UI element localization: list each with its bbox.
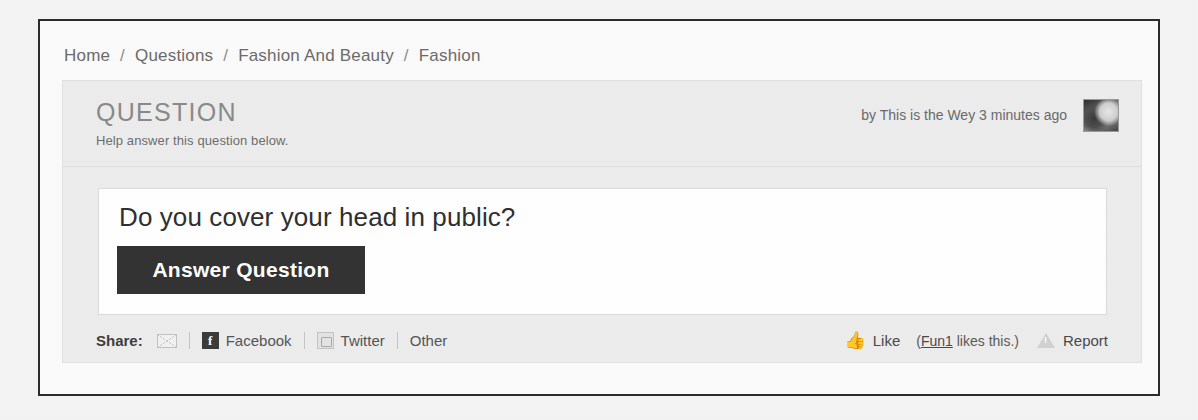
user-avatar-photo-icon[interactable] [1083, 99, 1119, 132]
warning-triangle-icon [1037, 333, 1055, 348]
breadcrumb-item-questions[interactable]: Questions [135, 46, 213, 65]
share-twitter-link[interactable]: Twitter [317, 332, 385, 349]
facebook-icon: f [202, 332, 219, 349]
question-card-header: QUESTION Help answer this question below… [63, 81, 1141, 167]
question-card: QUESTION Help answer this question below… [62, 80, 1142, 363]
page-subtitle: Help answer this question below. [96, 133, 289, 148]
breadcrumb-separator: / [120, 46, 125, 65]
share-divider [189, 332, 190, 349]
breadcrumb-separator: / [404, 46, 409, 65]
like-button[interactable]: Like [873, 332, 901, 349]
answer-question-button[interactable]: Answer Question [117, 246, 365, 294]
question-footer: Share: f Facebook Twitter Other 👍 Like [63, 326, 1141, 364]
action-group: 👍 Like (Fun1 likes this.) Report [845, 332, 1108, 349]
share-other-link[interactable]: Other [410, 332, 448, 349]
likes-note-rest: likes this.) [953, 333, 1019, 349]
share-group: Share: f Facebook Twitter Other [96, 332, 447, 349]
question-body: Do you cover your head in public? Answer… [98, 188, 1107, 315]
question-text: Do you cover your head in public? [119, 202, 515, 233]
report-button[interactable]: Report [1063, 332, 1108, 349]
author-byline: by This is the Wey 3 minutes ago [861, 107, 1067, 123]
envelope-icon[interactable] [157, 334, 177, 348]
breadcrumb-item-fashion-and-beauty[interactable]: Fashion And Beauty [238, 46, 394, 65]
share-divider [304, 332, 305, 349]
share-facebook-label: Facebook [226, 332, 292, 349]
share-label: Share: [96, 332, 143, 349]
page-title: QUESTION [96, 98, 237, 127]
breadcrumb-separator: / [223, 46, 228, 65]
share-divider [397, 332, 398, 349]
likes-note: (Fun1 likes this.) [916, 333, 1019, 349]
thumbs-up-icon[interactable]: 👍 [844, 332, 866, 349]
share-twitter-label: Twitter [341, 332, 385, 349]
breadcrumb-item-home[interactable]: Home [64, 46, 110, 65]
breadcrumb-item-fashion[interactable]: Fashion [419, 46, 481, 65]
share-facebook-link[interactable]: f Facebook [202, 332, 292, 349]
twitter-icon [317, 332, 334, 349]
liker-link[interactable]: Fun1 [921, 333, 953, 349]
breadcrumb: Home / Questions / Fashion And Beauty / … [64, 46, 481, 66]
page-frame: Home / Questions / Fashion And Beauty / … [38, 19, 1160, 396]
